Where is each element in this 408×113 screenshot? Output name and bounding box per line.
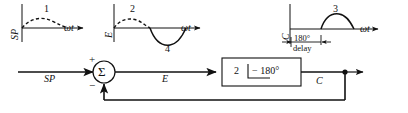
summer-plus-sign: +	[89, 54, 95, 65]
block-gain-value: 2	[234, 66, 239, 76]
summer-sigma-symbol: Σ	[98, 65, 106, 78]
control-system-diagram: 1 SP ωt 2 E ωt 4 3 C ωt 180° delay SP + …	[0, 0, 408, 113]
plot-2-waveform-dashed	[114, 19, 150, 28]
delay-annotation-label: delay	[293, 44, 311, 53]
block-diagram-group	[18, 58, 363, 100]
controlled-variable-label: C	[316, 76, 323, 86]
block-phase-value: − 180°	[252, 66, 279, 76]
error-signal-label: E	[162, 74, 168, 84]
plot-2-trough-label: 4	[165, 44, 170, 54]
plot-3-x-axis-label: ωt	[360, 24, 370, 34]
plot-1-y-axis-label: SP	[10, 29, 20, 40]
setpoint-label: SP	[44, 74, 55, 84]
plot-1-x-axis-label: ωt	[64, 23, 74, 33]
delay-annotation-degrees: 180°	[294, 34, 310, 43]
plot-3-waveform	[321, 14, 354, 29]
plot-3-y-axis-label: C	[281, 33, 291, 40]
plot-2-number: 2	[130, 4, 135, 14]
plot-2-y-axis-label: E	[104, 32, 114, 38]
diagram-canvas	[0, 0, 408, 113]
plot-2-x-axis-label: ωt	[181, 23, 191, 33]
summer-minus-sign: −	[89, 80, 95, 91]
plot-3-number: 3	[333, 4, 338, 14]
plot-1-number: 1	[44, 4, 49, 14]
plot-1-waveform	[22, 18, 68, 28]
